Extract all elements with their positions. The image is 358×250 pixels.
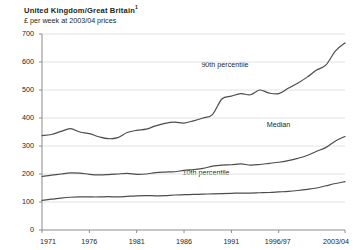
chart-container: United Kingdom/Great Britain1 £ per week… [0, 0, 358, 250]
chart-plot-area [0, 0, 358, 250]
series-line [42, 136, 345, 176]
series-line [42, 182, 345, 201]
series-line [42, 43, 345, 139]
gridlines [39, 34, 345, 230]
data-series [42, 43, 345, 200]
